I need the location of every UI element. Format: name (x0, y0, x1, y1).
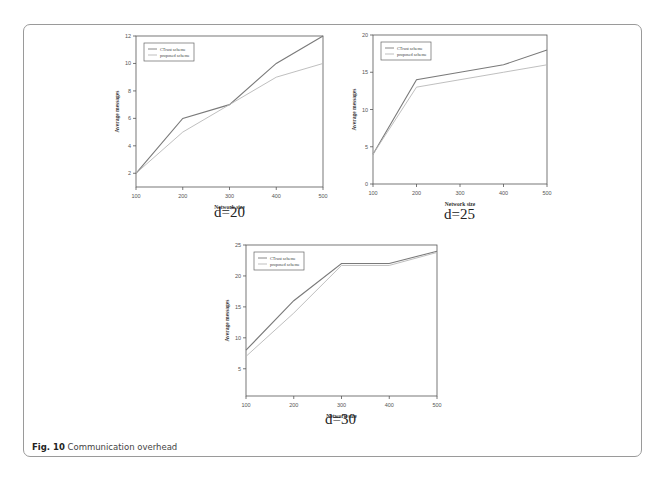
x-tick-label: 300 (225, 193, 234, 199)
x-tick-label: 300 (337, 402, 346, 408)
x-tick-label: 300 (455, 190, 464, 196)
y-axis-label: Average messages (114, 91, 120, 133)
x-tick-label: 500 (432, 402, 441, 408)
caption-label: Fig. 10 (32, 442, 65, 452)
y-tick-label: 5 (365, 144, 368, 150)
legend-entry: proposed scheme (160, 53, 190, 58)
y-tick-label: 10 (125, 60, 131, 66)
legend-entry: proposed scheme (397, 52, 427, 57)
y-tick-label: 2 (128, 170, 131, 176)
x-tick-label: 400 (385, 402, 394, 408)
legend-entry: CTrust scheme (397, 46, 423, 51)
y-tick-label: 15 (362, 69, 368, 75)
x-tick-label: 400 (499, 190, 508, 196)
y-tick-label: 0 (365, 181, 368, 187)
legend-entry: CTrust scheme (160, 47, 186, 52)
y-tick-label: 25 (235, 242, 241, 248)
chart-d20: 24681012100200300400500Network sizeAvera… (114, 33, 328, 210)
y-tick-label: 4 (128, 143, 131, 149)
x-tick-label: 500 (318, 193, 327, 199)
x-tick-label: 200 (412, 190, 421, 196)
series-line-ctrust (373, 50, 547, 154)
legend-entry: CTrust scheme (270, 256, 296, 261)
subtitle-d25: d=25 (444, 206, 475, 223)
y-tick-label: 15 (235, 304, 241, 310)
y-axis-label: Average messages (224, 300, 230, 342)
y-tick-label: 10 (362, 107, 368, 113)
y-tick-label: 20 (362, 32, 368, 38)
series-line-proposed (136, 63, 323, 173)
y-tick-label: 12 (125, 33, 131, 39)
x-tick-label: 400 (272, 193, 281, 199)
subtitle-d20: d=20 (214, 204, 245, 221)
y-tick-label: 20 (235, 273, 241, 279)
x-tick-label: 100 (131, 193, 140, 199)
x-tick-label: 500 (542, 190, 551, 196)
y-axis-label: Average messages (351, 89, 357, 131)
chart-d25: 05101520100200300400500Network sizeAvera… (351, 32, 552, 207)
x-tick-label: 200 (289, 402, 298, 408)
y-tick-label: 10 (235, 335, 241, 341)
x-tick-label: 100 (241, 402, 250, 408)
y-tick-label: 5 (238, 366, 241, 372)
y-tick-label: 6 (128, 115, 131, 121)
y-tick-label: 8 (128, 88, 131, 94)
figure-caption: Fig. 10 Communication overhead (32, 442, 177, 452)
x-tick-label: 100 (368, 190, 377, 196)
subtitle-d30: d=30 (325, 411, 356, 428)
legend-entry: proposed scheme (270, 262, 300, 267)
chart-d30: 510152025100200300400500Network sizeAver… (224, 242, 442, 419)
caption-text: Communication overhead (65, 442, 177, 452)
x-tick-label: 200 (178, 193, 187, 199)
